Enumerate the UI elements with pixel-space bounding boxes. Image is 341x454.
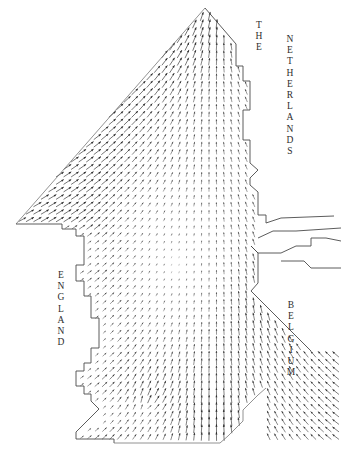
current-vector xyxy=(185,50,189,58)
current-vector xyxy=(133,300,136,304)
current-vector xyxy=(201,395,203,403)
current-vector xyxy=(141,256,143,259)
current-vector xyxy=(125,172,130,177)
current-vector xyxy=(238,172,240,177)
current-vector xyxy=(186,89,188,95)
current-vector xyxy=(133,202,137,206)
current-vector xyxy=(238,403,240,411)
current-vector xyxy=(163,127,166,133)
current-vector xyxy=(208,210,209,214)
current-vector xyxy=(267,343,270,350)
current-vector xyxy=(125,427,129,432)
current-vector xyxy=(216,119,218,124)
current-vector xyxy=(201,351,203,357)
current-vector xyxy=(118,405,121,409)
current-vector xyxy=(201,104,203,110)
current-vector xyxy=(230,104,232,109)
current-vector xyxy=(103,421,106,424)
current-vector xyxy=(95,375,100,379)
current-vector xyxy=(125,217,129,221)
current-vector xyxy=(87,435,91,438)
current-vector xyxy=(163,419,166,425)
current-vector xyxy=(148,210,150,214)
current-vector xyxy=(156,344,158,349)
current-vector xyxy=(223,157,225,162)
current-vector xyxy=(133,322,136,326)
current-vector xyxy=(155,404,160,410)
current-vector xyxy=(223,336,225,343)
current-vector xyxy=(56,187,64,192)
current-vector xyxy=(208,432,210,441)
current-vector xyxy=(274,426,277,432)
current-vector xyxy=(238,351,240,358)
current-vector xyxy=(171,149,173,154)
current-vector xyxy=(193,373,195,380)
current-vector xyxy=(148,241,150,244)
current-vector xyxy=(216,358,218,365)
current-vector xyxy=(118,240,122,244)
current-vector xyxy=(275,320,278,327)
current-vector xyxy=(154,81,160,88)
current-vector xyxy=(216,134,218,139)
current-vector xyxy=(56,202,64,207)
current-vector xyxy=(156,293,158,296)
current-vector xyxy=(163,119,167,125)
current-vector xyxy=(201,149,203,154)
current-vector xyxy=(170,119,173,125)
current-vector xyxy=(186,210,187,213)
current-vector xyxy=(178,352,180,358)
current-vector xyxy=(163,180,165,184)
current-vector xyxy=(125,210,129,214)
current-vector xyxy=(186,226,187,229)
current-vector xyxy=(141,225,144,228)
current-vector xyxy=(116,141,123,147)
current-vector xyxy=(141,396,143,403)
current-vector xyxy=(148,322,150,326)
current-vector xyxy=(140,134,145,140)
current-vector xyxy=(193,96,195,102)
current-vector xyxy=(118,248,122,252)
current-vector xyxy=(231,232,232,237)
current-vector xyxy=(147,126,152,132)
current-vector xyxy=(140,126,145,132)
current-vector xyxy=(216,157,218,162)
current-vector xyxy=(332,389,339,394)
current-vector xyxy=(171,188,173,192)
current-vector xyxy=(118,285,122,289)
current-vector xyxy=(116,111,123,117)
current-vector xyxy=(230,58,232,65)
current-vector xyxy=(179,301,180,304)
current-vector xyxy=(49,217,57,222)
current-vector xyxy=(148,419,151,424)
current-vector xyxy=(303,411,308,417)
current-vector xyxy=(163,330,165,334)
current-vector xyxy=(216,127,218,132)
current-vector xyxy=(245,276,247,283)
current-vector xyxy=(148,412,151,416)
current-vector xyxy=(102,375,107,380)
current-vector xyxy=(64,209,72,214)
current-vector xyxy=(162,81,167,88)
current-vector xyxy=(230,395,232,403)
current-vector xyxy=(208,307,209,312)
current-vector xyxy=(164,233,165,236)
current-vector xyxy=(140,218,143,222)
current-vector xyxy=(201,256,202,259)
current-vector xyxy=(193,322,194,327)
current-vector xyxy=(179,322,180,326)
current-vector xyxy=(253,254,255,260)
current-vector xyxy=(177,58,181,66)
current-vector xyxy=(155,172,158,177)
current-vector xyxy=(133,404,135,409)
current-vector xyxy=(109,194,115,199)
current-vector xyxy=(186,403,188,411)
current-vector xyxy=(208,157,210,162)
current-vector xyxy=(101,171,108,177)
current-vector xyxy=(155,381,158,388)
current-vector xyxy=(102,390,106,394)
current-vector xyxy=(201,425,203,434)
current-vector xyxy=(179,264,180,266)
current-vector xyxy=(186,195,187,199)
current-vector xyxy=(260,351,263,358)
current-vector xyxy=(238,366,240,373)
